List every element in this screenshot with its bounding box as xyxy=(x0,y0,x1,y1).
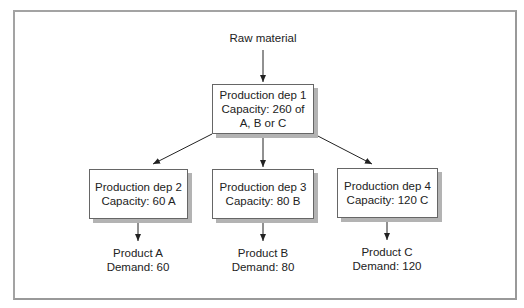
product-name: Product C xyxy=(337,245,437,259)
node-capacity: Capacity: 260 of xyxy=(221,102,304,116)
node-capacity: Capacity: 120 C xyxy=(347,193,429,207)
product-demand: Demand: 80 xyxy=(213,260,313,274)
raw-material-label: Raw material xyxy=(213,31,313,45)
node-title: Production dep 2 xyxy=(95,180,182,194)
node-products: A, B or C xyxy=(240,116,287,130)
product-a-label: Product A Demand: 60 xyxy=(88,246,188,274)
product-c-label: Product C Demand: 120 xyxy=(337,245,437,273)
product-b-label: Product B Demand: 80 xyxy=(213,246,313,274)
node-capacity: Capacity: 80 B xyxy=(226,194,301,208)
node-title: Production dep 3 xyxy=(220,180,307,194)
product-demand: Demand: 120 xyxy=(337,259,437,273)
production-dep-2-node: Production dep 2 Capacity: 60 A xyxy=(89,169,188,219)
production-dep-1-node: Production dep 1 Capacity: 260 of A, B o… xyxy=(212,84,314,134)
node-capacity: Capacity: 60 A xyxy=(101,194,175,208)
node-title: Production dep 4 xyxy=(344,179,431,193)
product-demand: Demand: 60 xyxy=(88,260,188,274)
production-dep-4-node: Production dep 4 Capacity: 120 C xyxy=(337,168,438,218)
node-title: Production dep 1 xyxy=(220,88,307,102)
product-name: Product A xyxy=(88,246,188,260)
production-dep-3-node: Production dep 3 Capacity: 80 B xyxy=(212,169,314,219)
product-name: Product B xyxy=(213,246,313,260)
